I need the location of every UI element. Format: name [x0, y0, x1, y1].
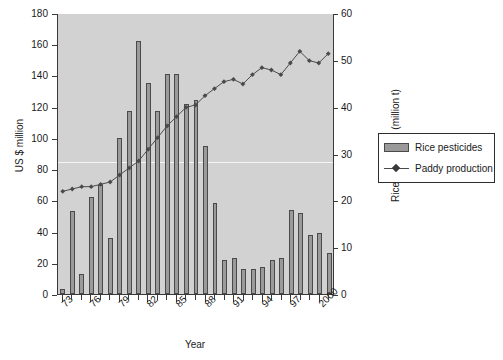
- y-axis-left-tick-label: 0: [14, 290, 48, 300]
- line-diamond-icon: [384, 164, 409, 173]
- y-axis-left-tick-label: 140: [14, 71, 48, 81]
- x-axis-tick-label: 82: [145, 294, 160, 309]
- legend-item-paddy-production: Paddy production: [384, 161, 493, 175]
- diamond-marker: [79, 184, 84, 189]
- x-axis-tick: [281, 295, 282, 300]
- diamond-marker: [269, 68, 274, 73]
- y-axis-left-tick: [52, 139, 57, 140]
- y-axis-right-tick: [333, 248, 338, 249]
- y-axis-right-tick-label: 10: [341, 243, 365, 253]
- y-axis-left-tick: [52, 295, 57, 296]
- x-axis-tick-label: 76: [88, 294, 103, 309]
- diamond-marker: [98, 182, 103, 187]
- y-axis-right-tick-label: 60: [341, 9, 365, 19]
- line-series-layer: [58, 14, 333, 294]
- y-axis-left-tick-label: 20: [14, 259, 48, 269]
- plot-inner: [58, 14, 333, 294]
- line-path: [63, 51, 329, 191]
- y-axis-right-tick-label: 50: [341, 56, 365, 66]
- legend: Rice pesticides Paddy production: [378, 133, 495, 183]
- x-axis-tick: [71, 295, 72, 300]
- x-axis-tick: [166, 295, 167, 300]
- y-axis-left-tick: [52, 14, 57, 15]
- y-axis-right-tick: [333, 108, 338, 109]
- chart-figure: 0204060801001201401601800102030405060737…: [0, 0, 503, 360]
- x-axis-tick: [185, 295, 186, 300]
- bar-swatch-icon: [384, 143, 409, 152]
- x-axis-tick: [252, 295, 253, 300]
- y-axis-left-tick: [52, 45, 57, 46]
- x-axis-tick: [300, 295, 301, 300]
- x-axis-tick: [157, 295, 158, 300]
- x-axis-tick: [224, 295, 225, 300]
- plot-area: [57, 14, 333, 295]
- y-axis-left-tick-label: 40: [14, 228, 48, 238]
- x-axis-tick: [138, 295, 139, 300]
- legend-label: Rice pesticides: [415, 142, 482, 153]
- y-axis-right-tick-label: 30: [341, 150, 365, 160]
- x-axis-tick: [109, 295, 110, 300]
- y-axis-right-tick-label: 20: [341, 196, 365, 206]
- y-axis-right-tick: [333, 14, 338, 15]
- y-axis-left-tick-label: 160: [14, 40, 48, 50]
- y-axis-left-tick: [52, 76, 57, 77]
- x-axis-tick: [309, 295, 310, 300]
- x-axis-title: Year: [0, 339, 390, 350]
- y-axis-left-tick: [52, 264, 57, 265]
- x-axis-tick: [100, 295, 101, 300]
- x-axis-tick-label: 91: [231, 294, 246, 309]
- x-axis-tick: [128, 295, 129, 300]
- x-axis-tick: [195, 295, 196, 300]
- y-axis-left-tick: [52, 108, 57, 109]
- diamond-marker: [60, 189, 65, 194]
- y-axis-right-tick-label: 40: [341, 103, 365, 113]
- diamond-marker: [231, 77, 236, 82]
- x-axis-tick: [328, 295, 329, 300]
- legend-label: Paddy production: [415, 163, 493, 174]
- diamond-marker: [89, 184, 94, 189]
- y-axis-right-tick: [333, 61, 338, 62]
- x-axis-tick: [243, 295, 244, 300]
- x-axis-tick: [271, 295, 272, 300]
- x-axis-tick: [214, 295, 215, 300]
- y-axis-left-tick-label: 180: [14, 9, 48, 19]
- diamond-marker: [70, 187, 75, 192]
- x-axis-tick-label: 97: [288, 294, 303, 309]
- y-axis-left-tick: [52, 201, 57, 202]
- y-axis-right-tick-label: 0: [341, 290, 365, 300]
- y-axis-left-tick: [52, 170, 57, 171]
- x-axis-tick: [81, 295, 82, 300]
- y-axis-left-title: US $ million: [14, 91, 25, 201]
- y-axis-right-tick: [333, 201, 338, 202]
- y-axis-right-tick: [333, 155, 338, 156]
- y-axis-left-tick: [52, 233, 57, 234]
- legend-item-rice-pesticides: Rice pesticides: [384, 140, 482, 154]
